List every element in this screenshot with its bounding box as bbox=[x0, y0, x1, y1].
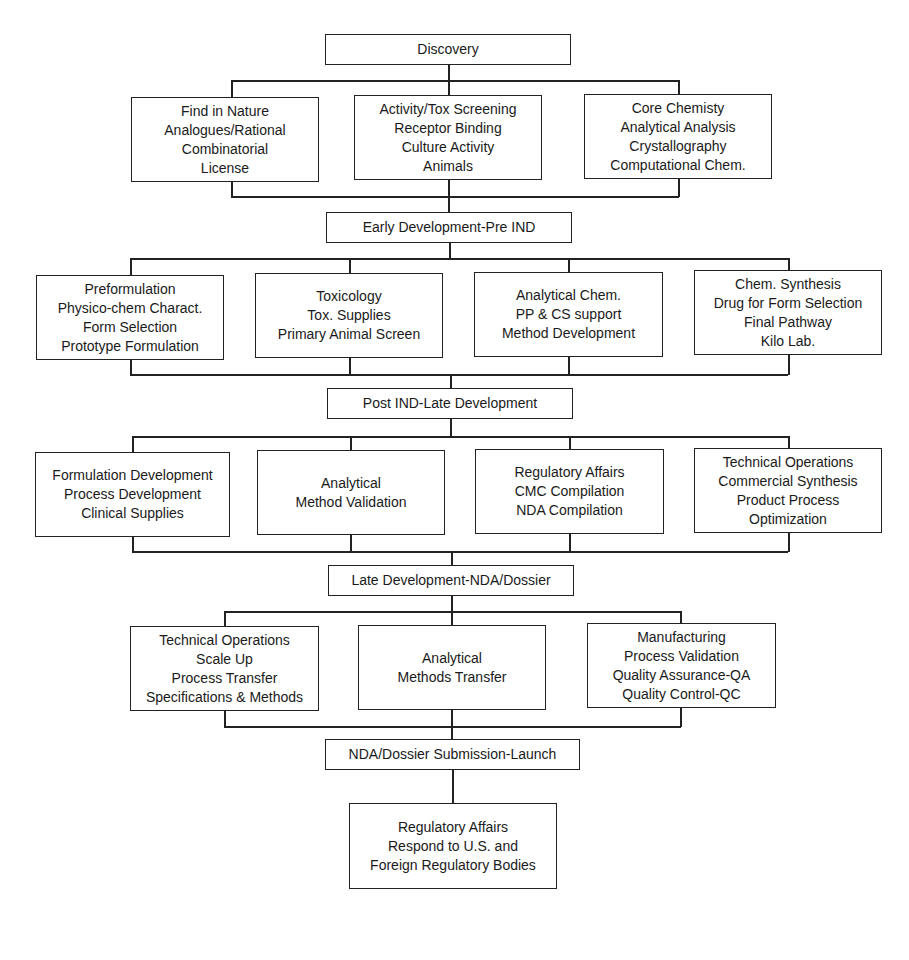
box-line: Chem. Synthesis bbox=[735, 275, 841, 294]
stage-label: Post IND-Late Development bbox=[363, 394, 537, 413]
connector bbox=[451, 551, 453, 565]
box-line: Analytical bbox=[321, 474, 381, 493]
tier4-box-manufacturing: ManufacturingProcess ValidationQuality A… bbox=[587, 623, 776, 708]
connector bbox=[450, 419, 452, 437]
connector bbox=[678, 179, 680, 197]
stage-discovery: Discovery bbox=[325, 34, 571, 65]
connector bbox=[788, 436, 790, 448]
box-line: Technical Operations bbox=[159, 631, 290, 650]
connector bbox=[569, 534, 571, 552]
box-line: Toxicology bbox=[316, 287, 381, 306]
box-line: Primary Animal Screen bbox=[278, 325, 420, 344]
box-line: Physico-chem Charact. bbox=[58, 299, 203, 318]
box-line: Scale Up bbox=[196, 650, 253, 669]
box-line: Process Development bbox=[64, 485, 201, 504]
connector bbox=[680, 611, 682, 623]
connector bbox=[132, 436, 134, 452]
connector bbox=[450, 374, 452, 388]
box-line: Receptor Binding bbox=[394, 119, 501, 138]
tier3-box-regulatory-affairs: Regulatory AffairsCMC CompilationNDA Com… bbox=[475, 449, 664, 534]
box-line: Culture Activity bbox=[402, 138, 495, 157]
connector bbox=[568, 258, 570, 272]
connector bbox=[231, 196, 679, 198]
tier2-box-toxicology: ToxicologyTox. SuppliesPrimary Animal Sc… bbox=[255, 273, 443, 358]
stage-submission: NDA/Dossier Submission-Launch bbox=[325, 739, 580, 770]
connector bbox=[788, 258, 790, 270]
connector bbox=[224, 611, 226, 626]
connector bbox=[224, 711, 226, 727]
tier3-box-method-validation: AnalyticalMethod Validation bbox=[257, 450, 445, 535]
box-line: Specifications & Methods bbox=[146, 688, 303, 707]
tier4-box-technical-operations: Technical OperationsScale UpProcess Tran… bbox=[130, 626, 319, 711]
stage-post-ind: Post IND-Late Development bbox=[327, 388, 573, 419]
connector bbox=[449, 243, 451, 259]
box-line: Prototype Formulation bbox=[61, 337, 199, 356]
box-line: Methods Transfer bbox=[398, 668, 507, 687]
connector bbox=[451, 596, 453, 612]
connector bbox=[130, 258, 132, 275]
box-line: Computational Chem. bbox=[610, 156, 745, 175]
connector bbox=[132, 537, 134, 552]
tier1-box-chemistry: Core ChemistyAnalytical AnalysisCrystall… bbox=[584, 94, 772, 179]
box-line: Regulatory Affairs bbox=[514, 463, 624, 482]
box-line: Final Pathway bbox=[744, 313, 832, 332]
connector bbox=[132, 436, 788, 438]
connector bbox=[448, 80, 450, 95]
connector bbox=[350, 436, 352, 450]
connector bbox=[680, 708, 682, 727]
connector bbox=[568, 357, 570, 375]
box-line: License bbox=[201, 159, 249, 178]
box-line: Process Transfer bbox=[172, 669, 278, 688]
stage-early-development: Early Development-Pre IND bbox=[326, 212, 572, 243]
connector bbox=[451, 611, 453, 625]
box-line: Regulatory Affairs bbox=[398, 818, 508, 837]
box-line: Kilo Lab. bbox=[761, 332, 815, 351]
box-line: Optimization bbox=[749, 510, 827, 529]
connector bbox=[451, 710, 453, 739]
box-line: Product Process bbox=[737, 491, 840, 510]
connector bbox=[678, 80, 680, 94]
box-line: Activity/Tox Screening bbox=[380, 100, 517, 119]
box-line: PP & CS support bbox=[516, 305, 622, 324]
box-line: Drug for Form Selection bbox=[714, 294, 863, 313]
stage-label: NDA/Dossier Submission-Launch bbox=[349, 745, 557, 764]
box-line: CMC Compilation bbox=[515, 482, 625, 501]
box-line: Formulation Development bbox=[52, 466, 212, 485]
connector bbox=[231, 80, 233, 97]
connector bbox=[788, 355, 790, 375]
stage-label: Early Development-Pre IND bbox=[363, 218, 536, 237]
box-line: Respond to U.S. and bbox=[388, 837, 518, 856]
stage-label: Discovery bbox=[417, 40, 478, 59]
box-line: Process Validation bbox=[624, 647, 739, 666]
connector bbox=[788, 533, 790, 552]
tier1-box-screening: Activity/Tox ScreeningReceptor BindingCu… bbox=[354, 95, 542, 180]
tier2-box-analytical-chem: Analytical Chem.PP & CS supportMethod De… bbox=[474, 272, 663, 357]
tier3-box-formulation-dev: Formulation DevelopmentProcess Developme… bbox=[35, 452, 230, 537]
connector bbox=[130, 374, 788, 376]
final-box-regulatory-affairs: Regulatory AffairsRespond to U.S. andFor… bbox=[349, 803, 557, 889]
connector bbox=[349, 358, 351, 375]
box-line: Analytical Chem. bbox=[516, 286, 621, 305]
box-line: Animals bbox=[423, 157, 473, 176]
box-line: Analogues/Rational bbox=[164, 121, 285, 140]
connector bbox=[231, 80, 679, 82]
box-line: Foreign Regulatory Bodies bbox=[370, 856, 536, 875]
box-line: Commercial Synthesis bbox=[718, 472, 857, 491]
tier3-box-technical-operations: Technical OperationsCommercial Synthesis… bbox=[694, 448, 882, 533]
connector bbox=[452, 770, 454, 803]
stage-late-development: Late Development-NDA/Dossier bbox=[328, 565, 574, 596]
box-line: Technical Operations bbox=[723, 453, 854, 472]
box-line: Quality Control-QC bbox=[622, 685, 740, 704]
box-line: Tox. Supplies bbox=[307, 306, 390, 325]
box-line: Find in Nature bbox=[181, 102, 269, 121]
box-line: Method Development bbox=[502, 324, 635, 343]
box-line: Analytical bbox=[422, 649, 482, 668]
stage-label: Late Development-NDA/Dossier bbox=[351, 571, 550, 590]
connector bbox=[130, 258, 788, 260]
connector bbox=[349, 258, 351, 273]
box-line: Combinatorial bbox=[182, 140, 268, 159]
box-line: Form Selection bbox=[83, 318, 177, 337]
connector bbox=[448, 65, 450, 81]
box-line: NDA Compilation bbox=[516, 501, 623, 520]
box-line: Analytical Analysis bbox=[620, 118, 735, 137]
